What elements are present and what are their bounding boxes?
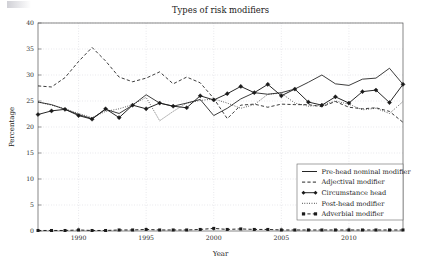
y-tick-label: 40 [26,19,34,26]
y-tick-label: 10 [26,175,34,182]
legend-item-label[interactable]: Adjectival modifier [321,178,386,186]
legend-item-label[interactable]: Circumstance head [322,189,387,197]
y-axis-title: Percentage [8,107,16,147]
legend-item-label[interactable]: Pre-head nominal modifier [322,168,412,176]
x-tick-label: 2010 [341,234,357,241]
y-tick-label: 35 [26,45,34,52]
risk-modifiers-line-chart: 0510152025303540 19901995200020052010 Ty… [0,0,425,266]
chart-title: Types of risk modifiers [172,5,269,15]
y-tick-label: 0 [30,227,34,234]
y-tick-label: 20 [26,123,34,130]
x-tick-label: 2000 [206,234,222,241]
legend-item-label[interactable]: Adverbial modifier [321,210,385,218]
series-adjectival-modifier [38,47,403,122]
series-pre-head-nominal-modifier [38,68,403,118]
x-axis-title: Year [212,250,229,258]
y-tick-label: 30 [26,71,34,78]
chart-figure: 0510152025303540 19901995200020052010 Ty… [0,0,425,266]
x-tick-label: 1990 [71,234,87,241]
x-tick-label: 2005 [273,234,289,241]
y-tick-label: 25 [26,97,34,104]
chart-legend[interactable]: Pre-head nominal modifierAdjectival modi… [297,164,411,220]
series-circumstance-head [36,82,405,121]
y-tick-label: 15 [26,149,34,156]
y-axis-ticks: 0510152025303540 [26,19,41,234]
legend-item-label[interactable]: Post-head modifier [322,200,386,208]
y-tick-label: 5 [30,201,34,208]
x-tick-label: 1995 [138,234,154,241]
